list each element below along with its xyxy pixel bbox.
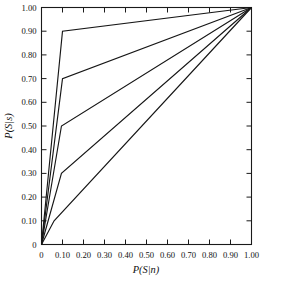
x-tick-label: 1.00 xyxy=(244,250,259,260)
x-tick-label: 0.90 xyxy=(223,250,238,260)
curve-curve-3 xyxy=(42,8,252,245)
x-tick-label: 0.30 xyxy=(97,250,112,260)
x-tick-label: 0.50 xyxy=(139,250,154,260)
y-tick-label: 0.90 xyxy=(21,26,36,36)
plot-border xyxy=(42,8,252,245)
curve-curve-5 xyxy=(42,8,252,245)
y-tick-label: 0.20 xyxy=(21,192,36,202)
y-axis-title: P(S|s) xyxy=(3,113,15,140)
x-tick-label: 0.80 xyxy=(202,250,217,260)
y-tick-label: 0.60 xyxy=(21,97,36,107)
top-axis-ticks xyxy=(63,8,231,13)
y-tick-label: 0 xyxy=(32,240,36,250)
x-axis-ticks xyxy=(63,240,231,245)
x-tick-label: 0.20 xyxy=(76,250,91,260)
y-axis-tick-labels: 00.100.200.300.400.500.600.700.800.901.0… xyxy=(21,3,36,250)
x-tick-label: 0.60 xyxy=(160,250,175,260)
data-curves xyxy=(42,8,252,245)
right-axis-ticks xyxy=(247,31,252,221)
y-tick-label: 0.50 xyxy=(21,121,36,131)
x-tick-label: 0.70 xyxy=(181,250,196,260)
chart-figure: 00.100.200.300.400.500.600.700.800.901.0… xyxy=(0,0,282,281)
y-axis-ticks xyxy=(42,31,47,221)
x-tick-label: 0.40 xyxy=(118,250,133,260)
x-axis-tick-labels: 00.100.200.300.400.500.600.700.800.901.0… xyxy=(39,250,259,260)
curve-curve-2 xyxy=(42,8,252,245)
y-tick-label: 0.80 xyxy=(21,50,36,60)
plot-frame xyxy=(42,8,252,245)
y-tick-label: 0.10 xyxy=(21,216,36,226)
curve-curve-1 xyxy=(42,8,252,245)
y-tick-label: 0.30 xyxy=(21,168,36,178)
y-tick-label: 0.70 xyxy=(21,74,36,84)
y-tick-label: 0.40 xyxy=(21,145,36,155)
curve-curve-4 xyxy=(42,8,252,245)
isosensitivity-plot: 00.100.200.300.400.500.600.700.800.901.0… xyxy=(0,0,282,281)
x-axis-title: P(S|n) xyxy=(132,264,160,276)
x-tick-label: 0 xyxy=(39,250,43,260)
y-tick-label: 1.00 xyxy=(21,3,36,13)
x-tick-label: 0.10 xyxy=(55,250,70,260)
